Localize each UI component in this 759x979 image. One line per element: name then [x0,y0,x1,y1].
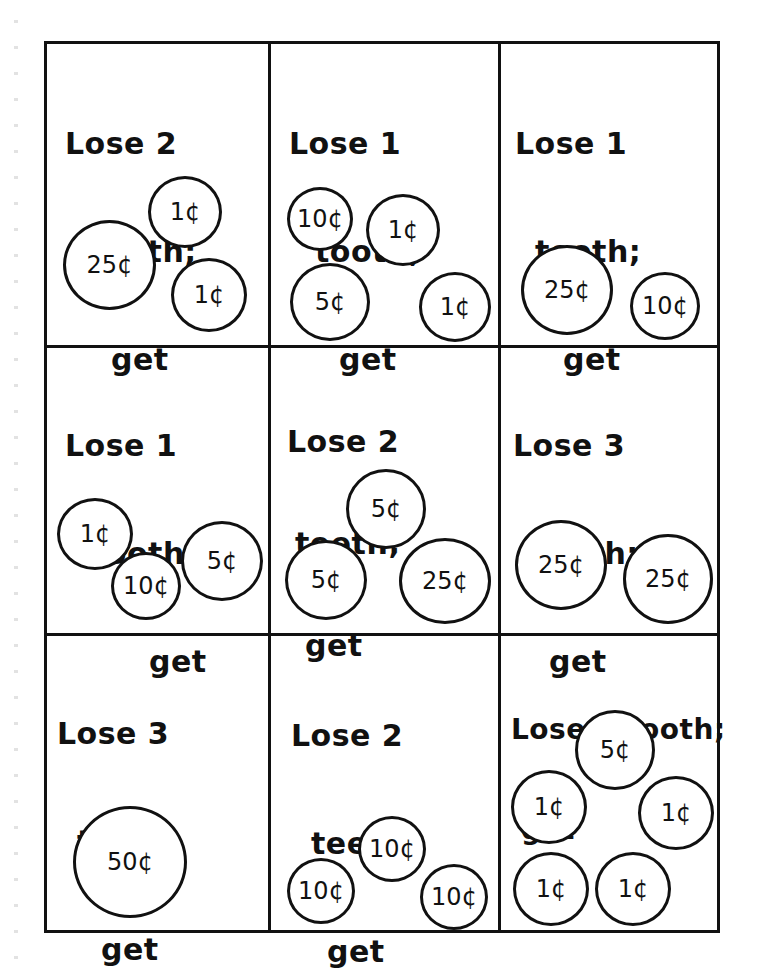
coin-dime: 10¢ [420,864,488,930]
cell-caption: Lose 2 teeth; get [291,646,417,979]
coin-nickel: 5¢ [290,263,370,341]
coin-half-dollar: 50¢ [73,806,187,918]
coin-penny: 1¢ [366,194,440,266]
worksheet-cell: Lose 2 teeth; get 5¢ 5¢ 25¢ [271,348,498,633]
worksheet-cell: Lose 1 tooth; get 5¢ 1¢ 1¢ 1¢ 1¢ [501,636,720,933]
caption-line: Lose 3 [513,428,639,464]
coin-penny: 1¢ [638,776,714,850]
coin-nickel: 5¢ [346,469,426,549]
caption-line: Lose 3 [57,716,183,752]
coin-nickel: 5¢ [181,521,263,601]
coin-dime: 10¢ [630,272,700,340]
caption-line: get [101,932,183,968]
caption-line: Lose 2 [65,126,197,162]
coin-penny: 1¢ [419,272,491,342]
caption-line: Lose 2 [291,718,417,754]
coin-quarter: 25¢ [623,534,713,624]
coin-penny: 1¢ [513,852,589,926]
caption-line: Lose 1 [515,126,641,162]
caption-line: Lose 1 [65,428,207,464]
worksheet-cell: Lose 3 teeth; get 25¢ 25¢ [501,348,720,633]
worksheet-cell: Lose 3 teeth; get 50¢ [47,636,268,933]
coin-nickel: 5¢ [285,540,367,620]
worksheet-cell: Lose 1 tooth; get 25¢ 10¢ [501,44,720,345]
coin-penny: 1¢ [511,770,587,844]
worksheet-cell: Lose 1 tooth; get 10¢ 1¢ 5¢ 1¢ [271,44,498,345]
worksheet-cell: Lose 2 teeth; get 1¢ 25¢ 1¢ [47,44,268,345]
coin-quarter: 25¢ [521,245,613,335]
coin-penny: 1¢ [148,176,222,248]
coin-dime: 10¢ [111,552,181,620]
caption-line: Lose 1 [289,126,421,162]
coin-penny: 1¢ [595,852,671,926]
worksheet-grid: Lose 2 teeth; get 1¢ 25¢ 1¢ Lose 1 tooth… [44,41,720,933]
coin-quarter: 25¢ [399,538,491,624]
caption-line: get [327,934,417,970]
coin-dime: 10¢ [358,816,426,882]
coin-nickel: 5¢ [575,710,655,790]
coin-penny: 1¢ [57,498,133,570]
worksheet-cell: Lose 2 teeth; get 10¢ 10¢ 10¢ [271,636,498,933]
coin-penny: 1¢ [171,258,247,332]
coin-quarter: 25¢ [515,520,607,610]
scan-margin-marks [14,20,18,960]
coin-dime: 10¢ [287,858,355,924]
caption-line: Lose 2 [287,424,401,460]
coin-dime: 10¢ [287,187,353,251]
coin-quarter: 25¢ [63,220,156,310]
worksheet-cell: Lose 1 tooth; get 1¢ 10¢ 5¢ [47,348,268,633]
